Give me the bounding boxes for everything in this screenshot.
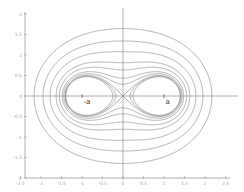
x-tick-label: -2 bbox=[39, 181, 44, 186]
y-tick-label: 0.5 bbox=[15, 73, 22, 78]
x-tick-label: -1 bbox=[80, 181, 85, 186]
x-tick-label: 2.5 bbox=[222, 181, 229, 186]
axes bbox=[25, 8, 238, 180]
y-tick-label: 1 bbox=[19, 53, 22, 58]
y-tick-label: -1.5 bbox=[13, 155, 22, 160]
x-tick-label: 1.5 bbox=[181, 181, 188, 186]
x-tick-label: 1 bbox=[163, 181, 166, 186]
y-tick-label: 1.5 bbox=[15, 32, 22, 37]
focus-label: a bbox=[166, 98, 170, 106]
x-tick-label: 0 bbox=[122, 181, 125, 186]
y-tick-label: -2 bbox=[18, 176, 23, 181]
x-tick-label: -0.5 bbox=[98, 181, 107, 186]
focus-label: -a bbox=[84, 98, 91, 106]
y-tick-label: -0.5 bbox=[13, 114, 22, 119]
cassini-ovals-chart: -2.5-2-1.5-1-0.500.511.522.5 21.510.50-0… bbox=[0, 0, 244, 192]
y-tick-label: -1 bbox=[18, 135, 23, 140]
y-tick-label: 2 bbox=[19, 12, 22, 17]
x-tick-label: 0.5 bbox=[140, 181, 147, 186]
x-tick-label: -1.5 bbox=[57, 181, 66, 186]
x-tick-label: 2 bbox=[204, 181, 207, 186]
y-tick-label: 0 bbox=[19, 94, 22, 99]
x-tick-label: -2.5 bbox=[16, 181, 25, 186]
